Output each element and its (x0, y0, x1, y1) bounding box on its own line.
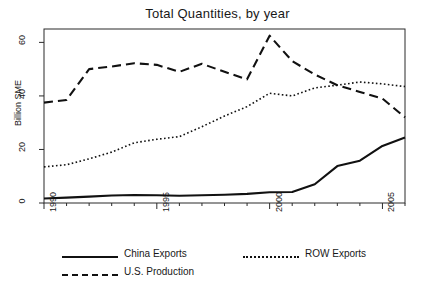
series-line-u-s-production (44, 36, 405, 118)
data-series-group (44, 36, 405, 199)
legend-swatch-china-exports (62, 256, 118, 258)
legend-label-u-s-production: U.S. Production (124, 266, 194, 277)
axis-ticks (39, 42, 405, 209)
series-line-row-exports (44, 82, 405, 167)
legend-label-china-exports: China Exports (124, 248, 187, 259)
legend-label-row-exports: ROW Exports (305, 248, 366, 259)
chart-legend: China ExportsU.S. ProductionROW Exports (0, 243, 435, 285)
legend-swatch-u-s-production (62, 274, 118, 276)
chart-figure: Total Quantities, by year Billion SME 02… (0, 0, 435, 286)
series-line-china-exports (44, 137, 405, 198)
legend-swatch-row-exports (243, 256, 299, 258)
